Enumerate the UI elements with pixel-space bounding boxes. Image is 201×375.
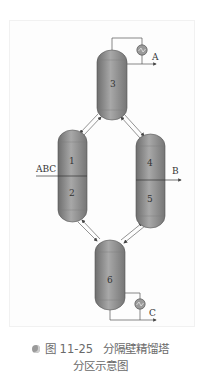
condenser-icon <box>137 45 147 55</box>
feed-label: ABC <box>35 164 56 174</box>
side-draw-label: B <box>172 166 179 176</box>
stream-c-label: C <box>149 308 156 318</box>
column-6: 6 <box>95 240 125 310</box>
column-4-5: 4 5 <box>136 134 165 228</box>
dividing-wall-column-diagram: 3 A 1 2 ABC 4 5 B 6 <box>0 0 201 375</box>
caption-bullet-icon <box>32 345 40 353</box>
stream-a-label: A <box>151 52 159 62</box>
reboiler-icon <box>135 299 145 309</box>
connecting-pipes <box>78 114 145 243</box>
figure-title: 分隔壁精馏塔 <box>103 342 169 356</box>
section-1-label: 1 <box>69 156 75 166</box>
figure-caption: 图 11-25分隔壁精馏塔 <box>0 340 201 356</box>
column-3: 3 <box>97 50 127 120</box>
column-6-label: 6 <box>107 275 113 285</box>
figure-number: 图 11-25 <box>45 342 93 356</box>
figure-caption-line2: 分区示意图 <box>0 357 201 373</box>
section-4-label: 4 <box>147 158 153 168</box>
section-5-label: 5 <box>147 194 153 204</box>
section-2-label: 2 <box>69 188 75 198</box>
column-3-label: 3 <box>110 79 116 89</box>
